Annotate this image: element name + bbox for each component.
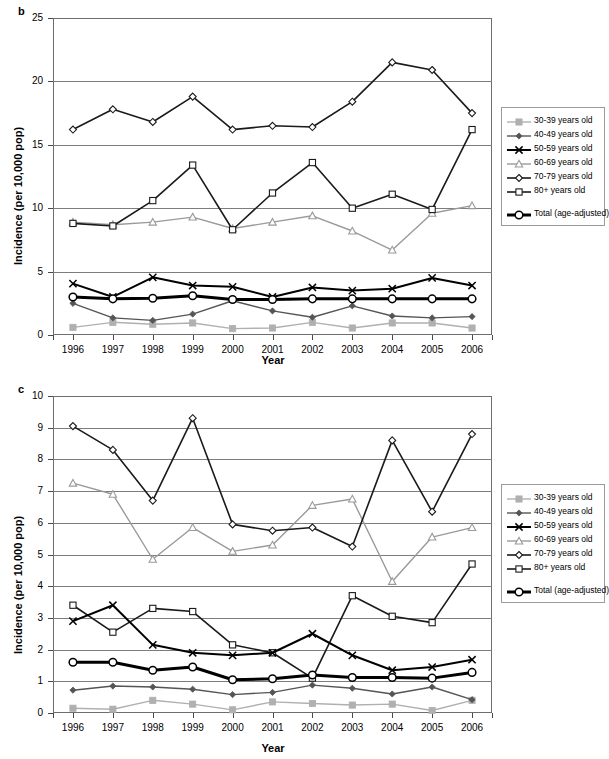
legend-marker-icon: [506, 547, 532, 559]
series-60-69-years-old: [69, 202, 475, 253]
legend-item-c-2[interactable]: 50-59 years old: [506, 518, 600, 532]
series-80-years-old: [70, 126, 475, 232]
legend-label: 70-79 years old: [532, 549, 593, 558]
x-tick-label: 2004: [372, 723, 412, 733]
series-total-age-adjusted-: [69, 292, 476, 303]
y-tick-label: 15: [17, 140, 43, 150]
x-tick-mark: [392, 713, 393, 718]
legend-label: Total (age-adjusted): [532, 209, 609, 218]
legend-label: 50-59 years old: [532, 144, 593, 153]
legend-marker-icon: [506, 561, 532, 573]
y-tick-label: 4: [17, 581, 43, 591]
legend-marker-icon: [506, 491, 532, 503]
x-tick-mark: [73, 335, 74, 340]
legend-b: 30-39 years old40-49 years old50-59 year…: [501, 107, 605, 226]
legend-item-b-4[interactable]: 70-79 years old: [506, 169, 600, 183]
y-tick-label: 6: [17, 518, 43, 528]
y-tick-label: 1: [17, 676, 43, 686]
series-30-39-years-old: [70, 319, 475, 332]
legend-label: 60-69 years old: [532, 535, 593, 544]
x-tick-mark: [273, 335, 274, 340]
legend-item-c-3[interactable]: 60-69 years old: [506, 532, 600, 546]
legend-label: 80+ years old: [532, 563, 585, 572]
legend-marker-icon: [506, 533, 532, 545]
legend-item-b-2[interactable]: 50-59 years old: [506, 141, 600, 155]
panel-b: b Incidence (per 10,000 pop) Year 252015…: [0, 0, 609, 372]
y-tick-label: 5: [17, 267, 43, 277]
legend-item-c-5[interactable]: 80+ years old: [506, 560, 600, 574]
x-tick-label: 1999: [173, 345, 213, 355]
legend-item-c-0[interactable]: 30-39 years old: [506, 490, 600, 504]
x-tick-label: 2001: [253, 723, 293, 733]
x-tick-mark: [113, 713, 114, 718]
series-80-years-old: [70, 561, 475, 681]
x-tick-mark: [472, 713, 473, 718]
x-tick-mark: [432, 335, 433, 340]
y-tick-label: 9: [17, 423, 43, 433]
x-tick-label: 2003: [332, 723, 372, 733]
series-plot-b: [53, 18, 492, 335]
x-tick-mark: [472, 335, 473, 340]
legend-marker-icon: [506, 505, 532, 517]
x-tick-label: 2005: [412, 723, 452, 733]
legend-label: 70-79 years old: [532, 172, 593, 181]
x-tick-mark: [492, 335, 493, 340]
series-30-39-years-old: [70, 697, 475, 713]
x-tick-mark: [233, 335, 234, 340]
x-tick-label: 1998: [133, 345, 173, 355]
legend-marker-icon: [506, 584, 532, 596]
x-tick-mark: [312, 713, 313, 718]
y-tick-label: 10: [17, 203, 43, 213]
x-tick-mark: [392, 335, 393, 340]
legend-label: 50-59 years old: [532, 521, 593, 530]
legend-item-c-total[interactable]: Total (age-adjusted): [506, 583, 600, 597]
x-tick-label: 1997: [93, 723, 133, 733]
x-tick-label: 2002: [292, 723, 332, 733]
y-tick-label: 25: [17, 13, 43, 23]
x-tick-label: 2005: [412, 345, 452, 355]
legend-label: 30-39 years old: [532, 493, 593, 502]
x-tick-mark: [153, 335, 154, 340]
series-total-age-adjusted-: [69, 658, 476, 683]
x-tick-mark: [193, 335, 194, 340]
x-tick-mark: [273, 713, 274, 718]
x-tick-label: 1996: [53, 345, 93, 355]
y-tick-label: 5: [17, 550, 43, 560]
x-tick-label: 2000: [213, 723, 253, 733]
x-axis-label-b: Year: [53, 354, 493, 366]
x-tick-label: 1998: [133, 723, 173, 733]
legend-label: 40-49 years old: [532, 507, 593, 516]
x-tick-label: 2004: [372, 345, 412, 355]
series-70-79-years-old: [69, 59, 475, 133]
legend-label: 80+ years old: [532, 186, 585, 195]
legend-item-b-3[interactable]: 60-69 years old: [506, 155, 600, 169]
legend-item-b-0[interactable]: 30-39 years old: [506, 113, 600, 127]
legend-label: Total (age-adjusted): [532, 586, 609, 595]
legend-item-c-1[interactable]: 40-49 years old: [506, 504, 600, 518]
x-tick-label: 2001: [253, 345, 293, 355]
x-tick-mark: [53, 335, 54, 340]
series-50-59-years-old: [69, 602, 475, 674]
legend-item-b-1[interactable]: 40-49 years old: [506, 127, 600, 141]
y-tick-label: 10: [17, 391, 43, 401]
x-tick-mark: [153, 713, 154, 718]
y-tick-label: 2: [17, 645, 43, 655]
x-tick-label: 1997: [93, 345, 133, 355]
legend-item-b-total[interactable]: Total (age-adjusted): [506, 206, 600, 220]
legend-item-c-4[interactable]: 70-79 years old: [506, 546, 600, 560]
legend-marker-icon: [506, 184, 532, 196]
legend-item-b-5[interactable]: 80+ years old: [506, 183, 600, 197]
legend-spacer: [506, 574, 600, 583]
x-tick-label: 2006: [452, 723, 492, 733]
x-tick-label: 2002: [292, 345, 332, 355]
legend-marker-icon: [506, 207, 532, 219]
legend-label: 40-49 years old: [532, 130, 593, 139]
y-tick-label: 20: [17, 76, 43, 86]
x-tick-mark: [73, 713, 74, 718]
x-tick-mark: [113, 335, 114, 340]
legend-label: 30-39 years old: [532, 116, 593, 125]
x-tick-mark: [492, 713, 493, 718]
y-tick-label: 8: [17, 454, 43, 464]
x-tick-label: 1996: [53, 723, 93, 733]
legend-marker-icon: [506, 156, 532, 168]
